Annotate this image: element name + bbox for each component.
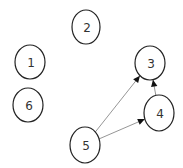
- edge-line: [95, 76, 140, 132]
- edge-line: [99, 119, 145, 139]
- edge-5-to-3: [95, 76, 140, 132]
- node-label: 2: [83, 21, 91, 35]
- graph-canvas: 123456: [0, 0, 183, 168]
- node-5[interactable]: 5: [70, 127, 100, 163]
- node-6[interactable]: 6: [13, 88, 43, 122]
- arrowhead-icon: [151, 80, 157, 87]
- node-4[interactable]: 4: [144, 95, 174, 131]
- arrowhead-icon: [133, 76, 140, 83]
- edge-4-to-3: [151, 80, 157, 96]
- nodes-layer: 123456: [13, 10, 174, 163]
- node-label: 3: [147, 57, 155, 71]
- node-2[interactable]: 2: [72, 10, 100, 44]
- node-1[interactable]: 1: [15, 45, 45, 79]
- edge-5-to-4: [99, 119, 145, 139]
- node-label: 5: [82, 139, 90, 153]
- node-label: 6: [25, 99, 33, 113]
- node-label: 4: [156, 107, 164, 121]
- node-label: 1: [27, 56, 35, 70]
- node-3[interactable]: 3: [135, 46, 165, 80]
